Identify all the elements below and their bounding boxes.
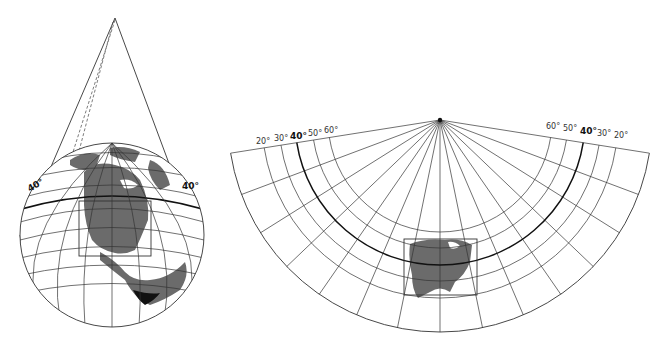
- globe-label-40-right: 40°: [182, 181, 199, 191]
- fan-label-left-50: 50°: [308, 129, 322, 138]
- fan-label-right-30: 30°: [597, 129, 611, 138]
- fan-label-right-50: 50°: [563, 124, 577, 133]
- fan-label-left-40: 40°: [290, 131, 307, 141]
- cone-apex: [438, 118, 442, 122]
- globe-with-cone: 40° 40°: [18, 18, 208, 330]
- unrolled-cone-fan: [231, 118, 650, 332]
- conic-projection-diagram: 40° 40° 20° 30° 40° 50° 60° 60° 50° 40° …: [0, 0, 663, 353]
- fan-label-left-60: 60°: [324, 126, 338, 135]
- fan-label-left-20: 20°: [256, 137, 270, 146]
- fan-label-left-30: 30°: [274, 134, 288, 143]
- fan-label-right-60: 60°: [546, 122, 560, 131]
- fan-label-right-40: 40°: [580, 126, 597, 136]
- fan-label-right-20: 20°: [614, 131, 628, 140]
- fan-labels-right: 60° 50° 40° 30° 20°: [546, 122, 628, 140]
